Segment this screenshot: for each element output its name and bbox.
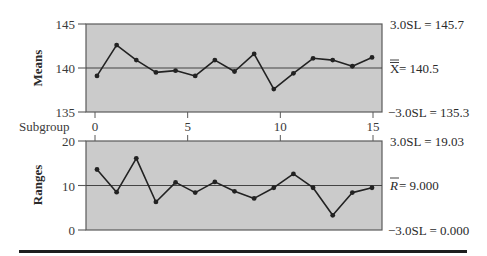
data-point: [154, 200, 159, 205]
data-point: [370, 55, 375, 60]
data-point: [271, 87, 276, 92]
control-chart: 145140135 Means 3.0SL = 145.7 X = 140.5 …: [0, 0, 487, 256]
data-point: [114, 43, 119, 48]
data-point: [311, 56, 316, 61]
ranges-lcl-label: −3.0SL = 0.000: [388, 223, 469, 238]
data-point: [212, 58, 217, 63]
data-point: [252, 196, 257, 201]
ranges-panel: 20100 Ranges 3.0SL = 19.03 R = 9.000 −3.…: [30, 134, 469, 238]
y-tick-label: 140: [56, 61, 76, 76]
means-lcl-label: −3.0SL = 135.3: [388, 105, 469, 120]
ranges-center-label: R = 9.000: [389, 178, 439, 193]
data-point: [291, 172, 296, 177]
bottom-rule: [19, 250, 467, 253]
y-tick-label: 0: [69, 223, 76, 238]
subgroup-ticks: 051015: [92, 112, 380, 141]
data-point: [370, 185, 375, 190]
means-axis-title: Means: [30, 50, 45, 87]
y-tick-label: 145: [56, 17, 76, 32]
ranges-axis-title: Ranges: [30, 165, 45, 205]
means-ucl-label: 3.0SL = 145.7: [390, 17, 465, 32]
data-point: [95, 74, 100, 79]
y-tick-label: 20: [62, 134, 75, 149]
y-tick-label: 135: [56, 105, 76, 120]
means-center-label: X = 140.5: [390, 60, 439, 76]
means-center-value: = 140.5: [399, 61, 439, 76]
x-tick-label: 5: [184, 119, 191, 134]
data-point: [95, 167, 100, 172]
data-point: [193, 190, 198, 195]
ranges-center-value: = 9.000: [399, 178, 439, 193]
data-point: [173, 180, 178, 185]
subgroup-label: Subgroup: [19, 119, 70, 134]
data-point: [114, 190, 119, 195]
means-y-axis: 145140135: [56, 17, 87, 120]
data-point: [291, 71, 296, 76]
y-tick-label: 10: [62, 179, 75, 194]
data-point: [212, 180, 217, 185]
data-point: [350, 190, 355, 195]
data-point: [252, 52, 257, 57]
data-point: [232, 69, 237, 74]
data-point: [232, 189, 237, 194]
x-tick-label: 15: [367, 119, 380, 134]
x-tick-label: 0: [92, 119, 99, 134]
data-point: [134, 58, 139, 63]
data-point: [154, 70, 159, 75]
data-point: [173, 68, 178, 73]
ranges-ucl-label: 3.0SL = 19.03: [390, 134, 464, 149]
data-point: [193, 74, 198, 79]
data-point: [350, 64, 355, 69]
ranges-y-axis: 20100: [62, 134, 86, 238]
means-panel: 145140135 Means 3.0SL = 145.7 X = 140.5 …: [30, 17, 469, 120]
x-tick-label: 10: [274, 119, 287, 134]
data-point: [271, 185, 276, 190]
data-point: [330, 213, 335, 218]
ranges-center-symbol: R: [389, 178, 398, 193]
data-point: [330, 58, 335, 63]
data-point: [134, 156, 139, 161]
data-point: [311, 185, 316, 190]
